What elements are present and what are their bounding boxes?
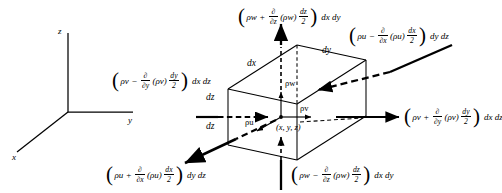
expr-near-face-x-flux-out: ( ρu + ∂ ∂x (ρu) dx 2 ) dy dz [106,166,206,183]
paren-open: ( [112,74,119,87]
expr-lead: ρu [358,31,367,41]
paren-close: ) [181,74,188,87]
expr-area-term: dy dz [430,31,449,41]
center-point-label: (x, y, z) [276,123,301,132]
expr-group: (ρu) [390,31,405,41]
expr-area-term: dx dz [192,76,211,86]
edge-label-dz-upper: dz [206,93,214,103]
frac-numerator: dz [299,8,308,16]
figure-canvas: z y x dx dy dz dz ρw ρv ρu (x, y, z) ( ρ… [0,0,502,193]
expr-lead: ρv [121,76,129,86]
expr-operator: + [422,112,430,122]
partial-numerator: ∂ [137,166,143,174]
partial-denominator: ∂y [141,82,150,90]
expr-group: (ρw) [333,170,349,180]
partial-numerator: ∂ [323,166,329,174]
partial-numerator: ∂ [380,27,386,35]
center-label-rho-v: ρv [300,104,309,113]
paren-open: ( [106,168,113,181]
partial-derivative-fraction: ∂ ∂x [378,27,387,44]
half-differential-fraction: dx 2 [407,27,416,44]
expr-area-term: dx dy [374,170,393,180]
flux-arrow-bottom-left [185,139,236,163]
expr-top-face-z-flux-out: ( ρw + ∂ ∂z (ρw) dz 2 ) dx dy [238,8,340,25]
axis-label-z: z [58,27,62,36]
coordinate-axes [17,33,133,152]
edge-label-dy: dy [322,46,331,56]
frac-numerator: dz [352,166,361,174]
expr-operator: + [258,12,266,22]
expr-operator: − [130,76,138,86]
partial-denominator: ∂z [322,176,331,184]
axis-label-x: x [12,153,16,162]
partial-numerator: ∂ [435,108,441,116]
partial-denominator: ∂x [378,37,387,45]
partial-denominator: ∂z [269,18,278,26]
edge-label-dx: dx [247,59,256,69]
frac-denominator: 2 [166,176,172,184]
paren-close: ) [363,168,370,181]
flux-arrow-top-right-dashed [318,72,390,90]
axis-label-y: y [128,116,132,125]
expr-far-face-x-flux-in: ( ρu − ∂ ∂x (ρu) dx 2 ) dy dz [349,27,449,44]
paren-close: ) [473,110,480,123]
frac-denominator: 2 [171,82,177,90]
expr-area-term: dy dz [187,170,206,180]
paren-close: ) [310,10,317,23]
expr-operator: − [311,170,319,180]
expr-lead: ρu [115,170,124,180]
expr-lead: ρv [413,112,421,122]
half-differential-fraction: dx 2 [164,166,173,183]
paren-close: ) [176,168,183,181]
half-differential-fraction: dy 2 [461,108,470,125]
flux-arrow-top-right [390,45,452,72]
half-differential-fraction: dz 2 [352,166,361,183]
frac-numerator: dy [461,108,470,116]
paren-open: ( [291,168,298,181]
expr-group: (ρv) [153,76,167,86]
axis-x-line [17,112,68,152]
half-differential-fraction: dy 2 [169,72,178,89]
expr-group: (ρu) [147,170,162,180]
cube-hidden-bottom-edge [300,118,362,122]
center-label-rho-u: ρu [245,118,254,127]
expr-operator: + [125,170,133,180]
expr-back-face-y-flux-in: ( ρv − ∂ ∂y (ρv) dy 2 ) dx dz [112,72,211,89]
expr-operator: − [368,31,376,41]
partial-derivative-fraction: ∂ ∂z [322,166,331,183]
frac-numerator: dx [407,27,416,35]
expr-group: (ρv) [445,112,459,122]
frac-denominator: 2 [353,176,359,184]
paren-open: ( [238,10,245,23]
frac-denominator: 2 [300,18,306,26]
edge-label-dz-lower: dz [206,122,214,132]
frac-denominator: 2 [409,37,415,45]
expr-lead: ρw [247,12,257,22]
partial-numerator: ∂ [143,72,149,80]
center-label-rho-w: ρw [285,79,295,88]
expr-group: (ρw) [280,12,296,22]
expr-area-term: dx dy [321,12,340,22]
expr-front-face-y-flux-out: ( ρv + ∂ ∂y (ρv) dy 2 ) dx dz [404,108,502,125]
partial-numerator: ∂ [270,8,276,16]
paren-close: ) [419,29,426,42]
expr-area-term: dx dz [484,112,502,122]
expr-bottom-face-z-flux-in: ( ρw − ∂ ∂z (ρw) dz 2 ) dx dy [291,166,393,183]
partial-derivative-fraction: ∂ ∂y [141,72,150,89]
paren-open: ( [349,29,356,42]
partial-derivative-fraction: ∂ ∂x [135,166,144,183]
partial-denominator: ∂x [135,176,144,184]
partial-denominator: ∂y [433,118,442,126]
partial-derivative-fraction: ∂ ∂y [433,108,442,125]
frac-numerator: dy [169,72,178,80]
partial-derivative-fraction: ∂ ∂z [269,8,278,25]
frac-numerator: dx [164,166,173,174]
paren-open: ( [404,110,411,123]
half-differential-fraction: dz 2 [299,8,308,25]
expr-lead: ρw [300,170,310,180]
frac-denominator: 2 [463,118,469,126]
